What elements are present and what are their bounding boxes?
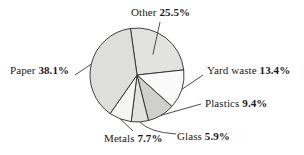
- pie-label-metals-value: 7.7%: [137, 132, 162, 144]
- pie-label-plastics: Plastics 9.4%: [205, 98, 267, 109]
- pie-slices-group: [90, 28, 184, 122]
- pie-label-glass-value: 5.9%: [205, 130, 230, 142]
- leader-line-yard-waste: [182, 75, 203, 89]
- pie-label-paper-value: 38.1%: [38, 64, 69, 76]
- leader-line-paper: [75, 64, 91, 75]
- pie-label-glass-category: Glass: [177, 130, 202, 142]
- pie-label-paper-category: Paper: [10, 64, 36, 76]
- pie-label-other-category: Other: [131, 6, 157, 18]
- pie-label-metals: Metals 7.7%: [104, 133, 163, 144]
- pie-label-other-value: 25.5%: [159, 6, 190, 18]
- pie-label-plastics-value: 9.4%: [242, 97, 267, 109]
- pie-label-other: Other 25.5%: [131, 7, 190, 18]
- pie-label-yard-waste-value: 13.4%: [260, 64, 291, 76]
- pie-label-yard-waste: Yard waste 13.4%: [207, 65, 290, 76]
- pie-label-glass: Glass 5.9%: [177, 131, 230, 142]
- pie-label-metals-category: Metals: [104, 132, 135, 144]
- pie-label-paper: Paper 38.1%: [10, 65, 69, 76]
- pie-chart-figure: Other 25.5% Yard waste 13.4% Plastics 9.…: [0, 0, 304, 155]
- pie-label-plastics-category: Plastics: [205, 97, 239, 109]
- pie-label-yard-waste-category: Yard waste: [207, 64, 257, 76]
